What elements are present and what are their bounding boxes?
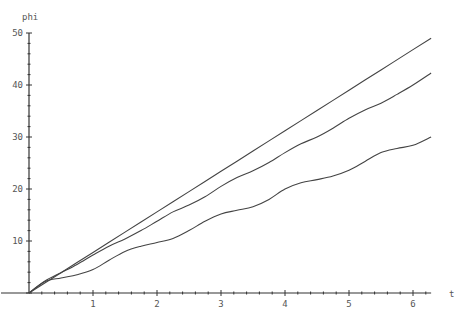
y-tick-label: 40 xyxy=(12,80,23,90)
series-line-lower xyxy=(29,137,431,293)
series-line-upper xyxy=(29,38,431,293)
x-tick-label: 2 xyxy=(154,299,159,309)
y-tick-label: 30 xyxy=(12,132,23,142)
x-tick-label: 6 xyxy=(410,299,415,309)
x-tick-label: 4 xyxy=(282,299,287,309)
x-axis-label: t xyxy=(449,289,454,299)
y-tick-label: 50 xyxy=(12,28,23,38)
y-tick-label: 10 xyxy=(12,236,23,246)
series-group xyxy=(29,38,431,293)
x-axis: 123456 xyxy=(1,290,431,309)
y-axis: 1020304050 xyxy=(12,28,32,293)
y-tick-label: 20 xyxy=(12,184,23,194)
x-tick-label: 1 xyxy=(90,299,95,309)
y-axis-label: phi xyxy=(22,12,38,22)
x-tick-label: 3 xyxy=(218,299,223,309)
line-chart: 1020304050 123456 phi t xyxy=(0,0,467,318)
series-line-middle xyxy=(29,73,431,293)
x-tick-label: 5 xyxy=(346,299,351,309)
